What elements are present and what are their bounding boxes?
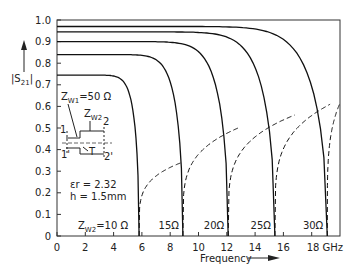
y-tick-label: 0.1 <box>35 209 51 220</box>
x-tick-label: 16 <box>277 242 290 253</box>
x-tick-label: 12 <box>220 242 233 253</box>
port-2-label: 2 <box>103 116 109 127</box>
x-tick-label: 18 GHz <box>307 242 343 253</box>
series-dashed-5 <box>327 103 340 236</box>
thickness-label: h = 1.5mm <box>70 191 126 202</box>
y-tick-label: 0.4 <box>35 144 51 155</box>
port-1-label: 1 <box>60 124 66 135</box>
x-tick-label: 0 <box>54 242 60 253</box>
y-tick-label: 0.6 <box>35 101 51 112</box>
ylabel-text: |S21| <box>11 73 33 87</box>
axes: 00.10.20.30.40.50.60.70.80.91.0024681012… <box>35 15 343 254</box>
series-dashed-3 <box>228 115 295 236</box>
x-tick-label: 2 <box>82 242 88 253</box>
circuit-inset: ZW1=50 Ω ZW2 1 1' 2 2' T εr = 2.32 h = 1… <box>60 91 126 202</box>
x-tick-label: 8 <box>167 242 173 253</box>
zw1-label: ZW1=50 Ω <box>61 91 112 105</box>
zw2-10-label: ZW2=10 Ω <box>78 220 129 234</box>
arrow-right-icon <box>268 255 280 261</box>
x-tick-label: 14 <box>249 242 262 253</box>
series-solid-3 <box>57 42 228 236</box>
series-solid-2 <box>57 55 183 236</box>
resonance-label: 30Ω <box>303 220 324 231</box>
resonance-label: 25Ω <box>251 220 272 231</box>
port-1p-label: 1' <box>61 149 70 160</box>
y-tick-label: 0.5 <box>35 123 51 134</box>
reference-plane-label: T <box>88 146 96 157</box>
resonance-label: 15Ω <box>159 220 180 231</box>
y-tick-label: 0 <box>45 231 51 242</box>
y-tick-label: 0.7 <box>35 79 51 90</box>
x-tick-label: 6 <box>139 242 145 253</box>
y-tick-label: 0.2 <box>35 187 51 198</box>
xlabel-text: Frequency <box>200 253 252 264</box>
x-tick-label: 4 <box>110 242 116 253</box>
resonance-label: 20Ω <box>204 220 225 231</box>
arrow-up-icon <box>21 40 27 50</box>
y-tick-label: 0.9 <box>35 36 51 47</box>
x-axis-label: Frequency <box>200 253 280 264</box>
y-axis-label: |S21| <box>11 40 33 87</box>
y-tick-label: 0.3 <box>35 166 51 177</box>
permittivity-label: εr = 2.32 <box>70 179 117 190</box>
port-2p-label: 2' <box>104 151 113 162</box>
zw2-inset-label: ZW2 <box>84 108 102 122</box>
y-tick-label: 0.8 <box>35 58 51 69</box>
series-solid-4 <box>57 32 275 236</box>
y-tick-label: 1.0 <box>35 15 51 26</box>
s21-frequency-chart: 00.10.20.30.40.50.60.70.80.91.0024681012… <box>0 0 350 276</box>
x-tick-label: 10 <box>192 242 205 253</box>
series-dashed-4 <box>275 104 330 236</box>
